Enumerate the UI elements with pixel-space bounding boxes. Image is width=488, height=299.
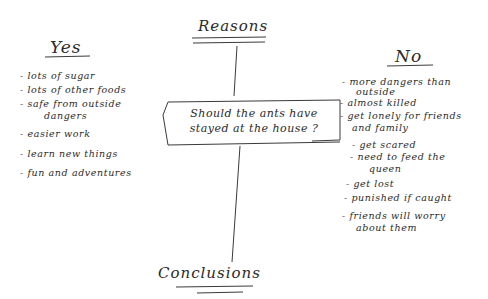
yes-item: - fun and adventures (20, 167, 132, 179)
no-item: - almost killed (340, 97, 417, 109)
no-heading: No (395, 46, 422, 66)
no-item: - get scared (352, 139, 416, 151)
no-item: - get lonely for friends (340, 110, 462, 122)
reasons-underline-2 (193, 42, 265, 43)
yes-heading: Yes (50, 37, 82, 57)
conclusions-underline-1 (176, 286, 253, 287)
no-item: - punished if caught (344, 192, 452, 204)
yes-item: - safe from outside (20, 98, 121, 110)
yes-item: - lots of sugar (20, 70, 95, 82)
reasons-underline-1 (192, 37, 266, 38)
conclusions-heading: Conclusions (158, 264, 261, 282)
question-line-2: stayed at the house ? (170, 121, 338, 136)
yes-item: - learn new things (20, 148, 118, 160)
central-question: Should the ants have stayed at the house… (170, 106, 338, 136)
no-item: - get lost (346, 178, 394, 190)
no-item: - friends will worry (342, 210, 446, 222)
conclusions-underline-2 (197, 292, 243, 293)
no-item-cont: queen (369, 163, 402, 175)
connector-top (234, 46, 237, 96)
yes-item: - lots of other foods (20, 84, 126, 96)
connector-bottom (232, 146, 240, 262)
no-item-cont: and family (352, 122, 409, 134)
question-line-1: Should the ants have (170, 106, 338, 121)
no-item: - need to feed the (350, 151, 445, 163)
yes-item: - easier work (20, 128, 91, 140)
no-item-cont: about them (356, 222, 417, 234)
reasons-heading: Reasons (198, 17, 268, 35)
yes-item-cont: dangers (44, 110, 87, 122)
